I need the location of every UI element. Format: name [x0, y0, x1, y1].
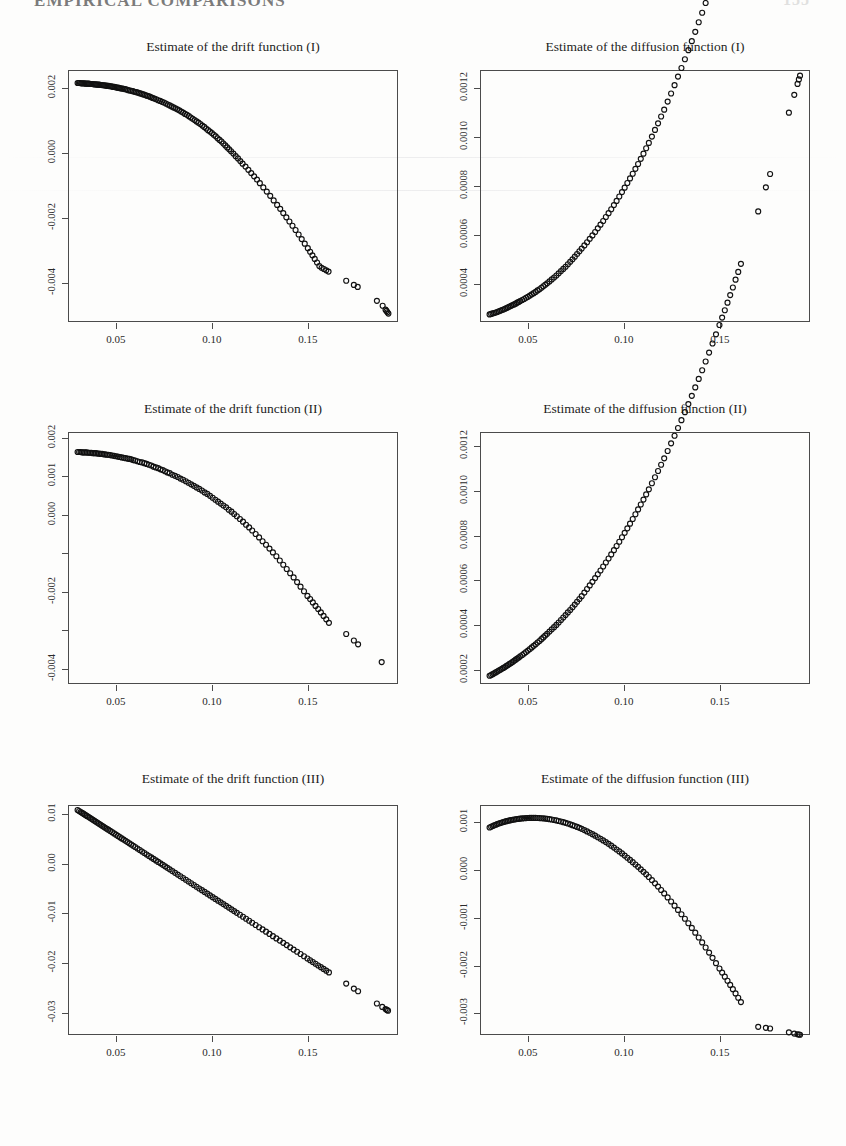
data-point: [693, 930, 698, 935]
x-tick: [528, 1036, 529, 1042]
data-point: [679, 912, 684, 917]
figure-grid: Estimate of the drift function (I)0.0020…: [0, 0, 846, 1146]
x-tick: [624, 1036, 625, 1042]
x-tick: [720, 1036, 721, 1042]
data-point: [786, 1030, 791, 1035]
x-tick-label: 0.15: [695, 1046, 745, 1058]
data-point: [676, 907, 681, 912]
scatter-series-diffusion-3: [480, 805, 810, 1035]
data-point: [689, 925, 694, 930]
data-point: [738, 1000, 743, 1005]
data-point: [686, 921, 691, 926]
data-point: [756, 1024, 761, 1029]
data-point: [682, 916, 687, 921]
data-point: [700, 940, 705, 945]
data-point: [707, 950, 712, 955]
data-point: [710, 955, 715, 960]
data-point: [713, 961, 718, 966]
y-tick-label: -0.002: [458, 941, 469, 987]
y-tick-label: -0.001: [458, 893, 469, 939]
data-point: [703, 945, 708, 950]
panel-diffusion-3: Estimate of the diffusion function (III)…: [0, 0, 846, 1146]
y-tick-label: 0.000: [458, 845, 469, 891]
data-point: [696, 935, 701, 940]
x-tick-label: 0.10: [599, 1046, 649, 1058]
y-tick-label: 0.001: [458, 797, 469, 843]
y-tick-label: -0.003: [458, 989, 469, 1035]
x-tick-label: 0.05: [503, 1046, 553, 1058]
panel-title-diffusion-3: Estimate of the diffusion function (III): [480, 771, 810, 787]
